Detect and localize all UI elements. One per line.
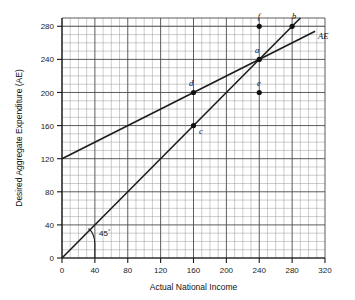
y-tick-label-160: 160 <box>41 122 55 131</box>
data-point-a <box>257 57 262 62</box>
chart-figure: 0 40 80 120 160 200 240 280 0 40 80 120 <box>0 0 355 300</box>
x-tick-label-200: 200 <box>220 266 234 275</box>
y-tick-label-40: 40 <box>45 221 54 230</box>
ae-series-label: AE <box>317 31 329 41</box>
data-point-d <box>191 90 196 95</box>
data-point-f <box>257 24 262 29</box>
y-tick-label-280: 280 <box>41 22 55 31</box>
data-point-label-e: e <box>257 78 261 88</box>
y-tick-label-120: 120 <box>41 155 55 164</box>
x-tick-label-160: 160 <box>187 266 201 275</box>
y-tick-label-0: 0 <box>50 254 55 263</box>
x-tick-label-40: 40 <box>90 266 99 275</box>
data-point-e <box>257 90 262 95</box>
y-tick-label-240: 240 <box>41 55 55 64</box>
keynesian-cross-chart: 0 40 80 120 160 200 240 280 0 40 80 120 <box>0 0 355 300</box>
x-tick-label-240: 240 <box>253 266 267 275</box>
x-tick-label-320: 320 <box>318 266 332 275</box>
data-point-label-c: c <box>199 126 203 136</box>
y-tick-label-80: 80 <box>45 188 54 197</box>
data-point-label-b: b <box>292 11 296 21</box>
y-axis-title: Desired Aggregate Expenditure (AE) <box>14 69 24 207</box>
x-tick-label-280: 280 <box>285 266 299 275</box>
y-tick-label-200: 200 <box>41 89 55 98</box>
x-tick-label-120: 120 <box>154 266 168 275</box>
x-axis-title: Actual National Income <box>150 282 238 292</box>
data-point-label-a: a <box>255 45 259 55</box>
data-point-c <box>191 123 196 128</box>
x-tick-label-80: 80 <box>123 266 132 275</box>
data-point-b <box>290 24 295 29</box>
x-tick-label-0: 0 <box>60 266 65 275</box>
